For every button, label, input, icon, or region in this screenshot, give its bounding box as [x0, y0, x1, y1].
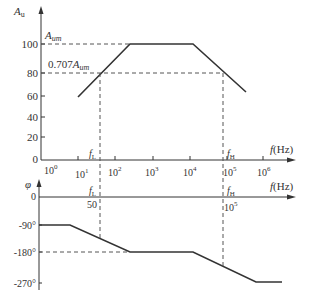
svg-text:-180°: -180° [14, 247, 36, 258]
phase-fL-value: 50 [87, 199, 97, 210]
phase-y-label: φ [25, 178, 31, 190]
phase-x-axis-label: f(Hz) [270, 180, 294, 193]
svg-text:-90°: -90° [19, 220, 36, 231]
svg-text:100: 100 [22, 38, 39, 50]
svg-text:60: 60 [27, 90, 39, 102]
aum-label: Aum [44, 29, 62, 43]
magnitude-x-ticks [78, 156, 263, 160]
phase-fL-label: fL [89, 185, 96, 198]
magnitude-curve [78, 44, 246, 97]
svg-text:-270°: -270° [14, 278, 36, 289]
magnitude-x-axis-label: f(Hz) [270, 143, 294, 156]
magnitude-x-tick-labels: 100 101 102 103 104 105 106 [44, 163, 271, 180]
phase-x-arrow-icon [287, 195, 296, 200]
svg-text:106: 106 [257, 165, 271, 178]
svg-text:104: 104 [183, 165, 197, 178]
svg-text:80: 80 [27, 67, 39, 79]
svg-text:103: 103 [145, 165, 159, 178]
svg-text:105: 105 [223, 165, 237, 178]
svg-text:20: 20 [27, 131, 39, 143]
magnitude-y-ticks [41, 44, 45, 137]
phase-fH-label: fH [227, 185, 235, 198]
phase-y-tick-labels: 0 -90° -180° -270° [14, 191, 36, 289]
phase-fH-value: 105 [224, 200, 238, 213]
magnitude-fL-label: fL [89, 148, 96, 161]
magnitude-x-arrow-icon [287, 158, 296, 163]
svg-text:102: 102 [108, 165, 122, 178]
svg-text:0: 0 [31, 191, 36, 202]
magnitude-fH-label: fH [227, 148, 235, 161]
svg-text:101: 101 [75, 167, 89, 180]
svg-text:100: 100 [44, 163, 58, 176]
phase-y-arrow-icon [37, 179, 42, 187]
aum-707-label: 0.707Aum [48, 58, 89, 72]
magnitude-y-arrow-icon [39, 6, 44, 14]
svg-text:40: 40 [27, 111, 39, 123]
magnitude-y-tick-labels: 100 80 60 40 20 0 [22, 38, 39, 165]
magnitude-y-label: Au [13, 5, 25, 19]
svg-text:0: 0 [33, 153, 39, 165]
phase-plot: φ 0 -90° -180° -270° fL 50 fH 105 f(Hz) [14, 178, 296, 290]
phase-curve [39, 225, 282, 282]
bode-plot-diagram: Au 100 80 60 40 20 0 [0, 0, 309, 303]
magnitude-plot: Au 100 80 60 40 20 0 [13, 5, 296, 180]
